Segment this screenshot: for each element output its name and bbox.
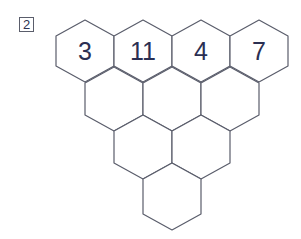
hex-value-r0-c2: 4 bbox=[172, 36, 230, 66]
hex-value-r0-c3: 7 bbox=[230, 36, 288, 66]
hex-value-r0-c1: 11 bbox=[114, 36, 172, 66]
hex-value-r0-c0: 3 bbox=[56, 36, 114, 66]
